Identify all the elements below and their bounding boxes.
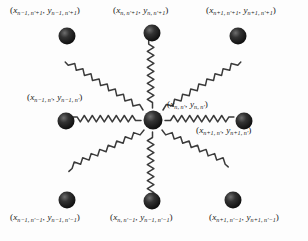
spring-center-bottom-center <box>147 132 154 200</box>
lattice-diagram <box>0 0 308 241</box>
lattice-figure: (xn−1, n′+1, yn−1, n′+1) (xn, n′+1, yn, … <box>0 0 308 241</box>
label-middle-left: (xn−1, n′, yn−1, n′) <box>27 93 82 102</box>
label-top-right: (xn+1, n′+1, yn+1, n′+1) <box>206 6 276 15</box>
node-center <box>144 111 163 130</box>
node-top-left <box>59 28 76 45</box>
node-bottom-center <box>144 193 161 210</box>
spring-center-bottom-left <box>69 130 144 171</box>
node-bottom-right <box>225 192 242 209</box>
label-center: (xn, n′, yn, n′) <box>167 100 208 109</box>
label-middle-right: (xn+1, n′, yn+1, n′) <box>196 126 251 135</box>
node-top-center <box>144 25 161 42</box>
label-bottom-left: (xn−1, n′−1, yn−1, n′−1) <box>10 213 80 222</box>
node-bottom-left <box>59 192 76 209</box>
label-bottom-right: (xn+1, n′−1, yn+1, n′−1) <box>209 213 279 222</box>
node-middle-left <box>58 113 75 130</box>
spring-center-top-center <box>147 40 154 108</box>
label-top-center: (xn, n′+1, yn, n′+1) <box>113 6 168 15</box>
node-top-right <box>230 28 247 45</box>
label-top-left: (xn−1, n′+1, yn−1, n′+1) <box>10 6 80 15</box>
label-bottom-center: (xn, n′−1, yn−1, n′−1) <box>110 213 173 222</box>
spring-center-middle-left <box>73 116 141 122</box>
spring-center-middle-right <box>165 116 234 122</box>
